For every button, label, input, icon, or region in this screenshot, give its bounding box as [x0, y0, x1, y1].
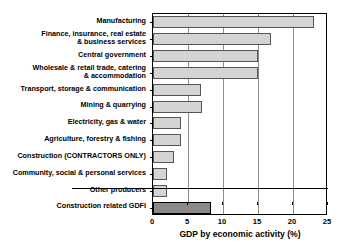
y-axis-tick [150, 107, 153, 108]
y-axis-label: Central government [0, 51, 146, 59]
bar[interactable] [153, 67, 258, 79]
x-axis-tick-15 [257, 202, 258, 205]
x-axis-tick-25 [327, 202, 328, 205]
bar-row [153, 16, 328, 28]
bar[interactable] [153, 185, 167, 197]
y-axis-label: Other producers [0, 186, 146, 194]
bar[interactable] [153, 168, 167, 180]
x-axis-tick-label: 20 [277, 217, 307, 226]
bar[interactable] [153, 151, 174, 163]
bar[interactable] [153, 202, 211, 214]
y-axis-label: Community, social & personal services [0, 169, 146, 177]
x-axis-tick-label: 5 [172, 217, 202, 226]
bar[interactable] [153, 117, 181, 129]
y-axis-tick [150, 73, 153, 74]
y-axis-tick [150, 123, 153, 124]
bar-row [153, 168, 328, 180]
x-axis-tick-20 [292, 202, 293, 205]
bar-row [153, 185, 328, 197]
bar-row [153, 151, 328, 163]
bar-row [153, 117, 328, 129]
y-axis-tick [150, 56, 153, 57]
y-axis-tick [150, 208, 153, 209]
bar-row [153, 50, 328, 62]
x-axis-tick-label: 15 [242, 217, 272, 226]
y-axis-tick [150, 174, 153, 175]
y-axis-label: Electricity, gas & water [0, 118, 146, 126]
y-axis-label: Agriculture, forestry & fishing [0, 135, 146, 143]
bar[interactable] [153, 33, 271, 45]
x-axis-tick-10 [222, 202, 223, 205]
bar-row [153, 67, 328, 79]
bar[interactable] [153, 16, 314, 28]
x-axis-tick-label: 10 [207, 217, 237, 226]
plot-area [152, 13, 327, 215]
chart-container: ManufacturingFinance, insurance, real es… [0, 0, 345, 244]
bar[interactable] [153, 134, 181, 146]
bar[interactable] [153, 101, 202, 113]
bar[interactable] [153, 50, 258, 62]
y-axis-tick [150, 191, 153, 192]
y-axis-tick [150, 140, 153, 141]
y-axis-label: Construction related GDFI [0, 202, 146, 210]
y-axis-label: Mining & quarrying [0, 101, 146, 109]
x-axis-tick-label: 25 [312, 217, 342, 226]
y-axis-tick [150, 90, 153, 91]
y-axis-label: Construction (CONTRACTORS ONLY) [0, 152, 146, 160]
y-axis-label: Wholesale & retail trade, catering & acc… [0, 64, 146, 81]
bar-row [153, 84, 328, 96]
bar-row [153, 33, 328, 45]
y-axis-label: Manufacturing [0, 17, 146, 25]
y-axis-label: Finance, insurance, real estate & busine… [0, 30, 146, 47]
y-axis-label: Transport, storage & communication [0, 85, 146, 93]
bar-row [153, 202, 328, 214]
x-axis-tick-label: 0 [137, 217, 167, 226]
separator-line [72, 188, 328, 189]
bar-row [153, 134, 328, 146]
bar-row [153, 101, 328, 113]
bar[interactable] [153, 84, 201, 96]
bar-series [153, 14, 326, 214]
y-axis-labels: ManufacturingFinance, insurance, real es… [0, 13, 150, 215]
y-axis-tick [150, 22, 153, 23]
x-axis-tick-0 [152, 202, 153, 205]
x-axis-title: GDP by economic activity (%) [152, 229, 328, 239]
y-axis-tick [150, 157, 153, 158]
x-axis-tick-5 [187, 202, 188, 205]
y-axis-tick [150, 39, 153, 40]
